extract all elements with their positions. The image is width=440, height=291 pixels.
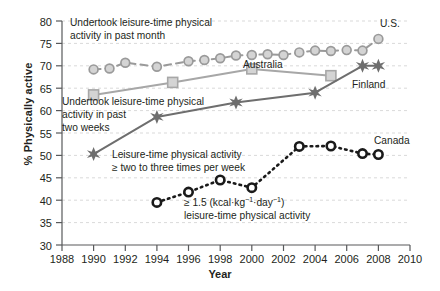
annotation-canada-sup-1: −1: [245, 196, 253, 203]
data-point-open-circle: [184, 188, 192, 196]
data-point-circle: [153, 62, 162, 71]
x-axis-ticks: [62, 245, 410, 251]
annotation-us: Undertook leisure-time physical activity…: [70, 17, 212, 41]
annotation-australia: Undertook leisure-time physical activity…: [62, 96, 204, 133]
x-tick-label-1998: 1998: [208, 253, 232, 265]
y-axis-title: % Physically active: [22, 34, 34, 194]
chart-svg: 80 75 70 65 60 55 50 45 40 35 30 1988 19…: [0, 0, 440, 291]
data-point-circle: [200, 56, 209, 65]
series-label-australia: Australia: [243, 59, 283, 70]
x-tick-label-2002: 2002: [271, 253, 295, 265]
series-layer: [87, 35, 385, 207]
data-point-square: [326, 71, 336, 81]
annotation-us-line1: Undertook leisure-time physical: [70, 17, 212, 28]
chart-container: 80 75 70 65 60 55 50 45 40 35 30 1988 19…: [0, 0, 440, 291]
annotation-canada-part-c: ·day: [253, 197, 274, 208]
data-point-circle: [232, 51, 241, 60]
annotation-canada-line2: leisure-time physical activity: [184, 210, 311, 221]
data-point-circle: [263, 50, 272, 59]
annotation-australia-line1: Undertook leisure-time physical: [62, 96, 204, 107]
data-point-open-circle: [358, 149, 366, 157]
data-point-open-circle: [295, 142, 303, 150]
y-tick-label-30: 30: [40, 240, 52, 252]
annotation-finland: Leisure-time physical activity ≥ two to …: [112, 149, 246, 173]
y-axis-ticks: [56, 21, 62, 245]
data-point-open-circle: [327, 142, 335, 150]
y-tick-label-45: 45: [40, 172, 52, 184]
data-point-open-circle: [216, 176, 224, 184]
y-tick-label-60: 60: [40, 105, 52, 117]
x-tick-label-1990: 1990: [81, 253, 105, 265]
series-label-finland: Finland: [352, 79, 386, 90]
data-point-open-circle: [153, 198, 161, 206]
annotation-canada: ≥ 1.5 (kcal·kg−1·day−1) leisure-time phy…: [184, 196, 311, 221]
data-point-star: [87, 147, 100, 161]
annotation-canada-part-e: ): [281, 197, 284, 208]
x-tick-label-2010: 2010: [398, 253, 422, 265]
x-tick-label-2006: 2006: [334, 253, 358, 265]
annotation-us-line2: activity in past month: [70, 30, 165, 41]
data-point-circle: [311, 46, 320, 55]
x-tick-label-2000: 2000: [240, 253, 264, 265]
series-finland: [87, 59, 385, 161]
x-tick-label-1994: 1994: [145, 253, 169, 265]
data-point-open-circle: [248, 184, 256, 192]
y-tick-label-40: 40: [40, 195, 52, 207]
data-point-square: [168, 77, 178, 87]
x-tick-label-1996: 1996: [176, 253, 200, 265]
series-label-us: U.S.: [380, 18, 400, 29]
y-tick-label-50: 50: [40, 150, 52, 162]
series-label-canada: Canada: [374, 135, 410, 146]
x-axis-title: Year: [0, 268, 440, 280]
annotation-australia-line3: two weeks: [62, 122, 110, 133]
data-point-circle: [89, 65, 98, 74]
series-line: [94, 69, 331, 95]
y-tick-label-70: 70: [40, 60, 52, 72]
x-tick-label-1988: 1988: [50, 253, 74, 265]
annotation-canada-line1: ≥ 1.5 (kcal·kg−1·day−1): [184, 196, 284, 208]
data-point-circle: [358, 46, 367, 55]
y-tick-label-75: 75: [40, 38, 52, 50]
x-tick-label-2008: 2008: [366, 253, 390, 265]
x-tick-label-2004: 2004: [303, 253, 327, 265]
data-point-circle: [374, 35, 383, 44]
annotation-canada-part-a: ≥ 1.5 (kcal·kg: [184, 197, 245, 208]
annotation-canada-sup-2: −1: [273, 196, 281, 203]
data-point-circle: [184, 57, 193, 66]
data-point-circle: [105, 64, 114, 73]
data-point-circle: [121, 58, 130, 67]
x-tick-label-1992: 1992: [113, 253, 137, 265]
y-tick-label-55: 55: [40, 128, 52, 140]
data-point-circle: [342, 46, 351, 55]
y-tick-label-65: 65: [40, 83, 52, 95]
data-point-circle: [327, 47, 336, 56]
annotation-finland-line2: ≥ two to three times per week: [112, 162, 246, 173]
data-point-circle: [295, 48, 304, 57]
data-point-circle: [216, 54, 225, 63]
data-point-open-circle: [374, 150, 382, 158]
y-tick-label-80: 80: [40, 16, 52, 28]
annotation-finland-line1: Leisure-time physical activity: [112, 149, 243, 160]
annotation-australia-line2: activity in past: [62, 109, 126, 120]
y-tick-label-35: 35: [40, 217, 52, 229]
